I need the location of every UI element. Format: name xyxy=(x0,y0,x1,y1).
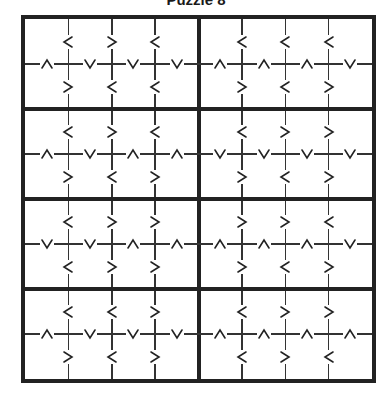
up-chevron-icon xyxy=(213,327,227,341)
greater-than-icon xyxy=(322,260,336,274)
up-chevron-icon xyxy=(257,237,271,251)
greater-than-icon xyxy=(235,260,249,274)
up-chevron-icon xyxy=(257,57,271,71)
down-chevron-icon xyxy=(40,237,54,251)
less-than-icon xyxy=(278,260,292,274)
greater-than-icon xyxy=(235,80,249,94)
greater-than-icon xyxy=(61,350,75,364)
up-chevron-icon xyxy=(213,57,227,71)
less-than-icon xyxy=(148,35,162,49)
greater-than-icon xyxy=(148,260,162,274)
less-than-icon xyxy=(61,305,75,319)
up-chevron-icon xyxy=(300,237,314,251)
less-than-icon xyxy=(61,215,75,229)
greater-than-icon xyxy=(235,170,249,184)
less-than-icon xyxy=(105,170,119,184)
down-chevron-icon xyxy=(83,147,97,161)
up-chevron-icon xyxy=(126,237,140,251)
greater-than-icon xyxy=(105,215,119,229)
less-than-icon xyxy=(235,350,249,364)
up-chevron-icon xyxy=(126,147,140,161)
less-than-icon xyxy=(278,35,292,49)
greater-than-icon xyxy=(278,350,292,364)
down-chevron-icon xyxy=(343,57,357,71)
less-than-icon xyxy=(105,350,119,364)
less-than-icon xyxy=(61,260,75,274)
down-chevron-icon xyxy=(170,327,184,341)
puzzle-title: Puzzle 8 xyxy=(0,0,392,9)
less-than-icon xyxy=(322,35,336,49)
down-chevron-icon xyxy=(300,147,314,161)
up-chevron-icon xyxy=(40,57,54,71)
down-chevron-icon xyxy=(257,147,271,161)
greater-than-icon xyxy=(322,80,336,94)
down-chevron-icon xyxy=(343,147,357,161)
greater-than-icon xyxy=(322,170,336,184)
greater-than-icon xyxy=(105,125,119,139)
up-chevron-icon xyxy=(257,327,271,341)
less-than-icon xyxy=(235,125,249,139)
down-chevron-icon xyxy=(170,57,184,71)
up-chevron-icon xyxy=(170,147,184,161)
less-than-icon xyxy=(105,80,119,94)
up-chevron-icon xyxy=(300,57,314,71)
cell-divider-horizontal xyxy=(25,153,372,155)
less-than-icon xyxy=(322,215,336,229)
less-than-icon xyxy=(148,125,162,139)
greater-than-icon xyxy=(148,305,162,319)
greater-than-icon xyxy=(148,350,162,364)
less-than-icon xyxy=(148,80,162,94)
box-divider-horizontal xyxy=(25,107,372,111)
less-than-icon xyxy=(61,35,75,49)
less-than-icon xyxy=(278,80,292,94)
cell-divider-horizontal xyxy=(25,243,372,245)
greater-than-icon xyxy=(61,170,75,184)
less-than-icon xyxy=(105,305,119,319)
greater-than-icon xyxy=(322,305,336,319)
greater-than-icon xyxy=(278,125,292,139)
greater-than-icon xyxy=(105,260,119,274)
down-chevron-icon xyxy=(83,237,97,251)
up-chevron-icon xyxy=(40,147,54,161)
box-divider-horizontal xyxy=(25,197,372,201)
puzzle-grid xyxy=(21,15,376,383)
down-chevron-icon xyxy=(83,57,97,71)
less-than-icon xyxy=(278,170,292,184)
greater-than-icon xyxy=(105,35,119,49)
greater-than-icon xyxy=(61,80,75,94)
greater-than-icon xyxy=(148,215,162,229)
less-than-icon xyxy=(235,35,249,49)
down-chevron-icon xyxy=(213,147,227,161)
greater-than-icon xyxy=(235,215,249,229)
less-than-icon xyxy=(322,350,336,364)
down-chevron-icon xyxy=(83,327,97,341)
cell-divider-horizontal xyxy=(25,63,372,65)
down-chevron-icon xyxy=(126,57,140,71)
greater-than-icon xyxy=(322,125,336,139)
up-chevron-icon xyxy=(213,237,227,251)
up-chevron-icon xyxy=(40,327,54,341)
up-chevron-icon xyxy=(300,327,314,341)
greater-than-icon xyxy=(278,215,292,229)
down-chevron-icon xyxy=(343,237,357,251)
up-chevron-icon xyxy=(343,327,357,341)
less-than-icon xyxy=(61,125,75,139)
cell-divider-horizontal xyxy=(25,333,372,335)
greater-than-icon xyxy=(148,170,162,184)
up-chevron-icon xyxy=(170,237,184,251)
box-divider-horizontal xyxy=(25,287,372,291)
greater-than-icon xyxy=(278,305,292,319)
less-than-icon xyxy=(235,305,249,319)
down-chevron-icon xyxy=(126,327,140,341)
